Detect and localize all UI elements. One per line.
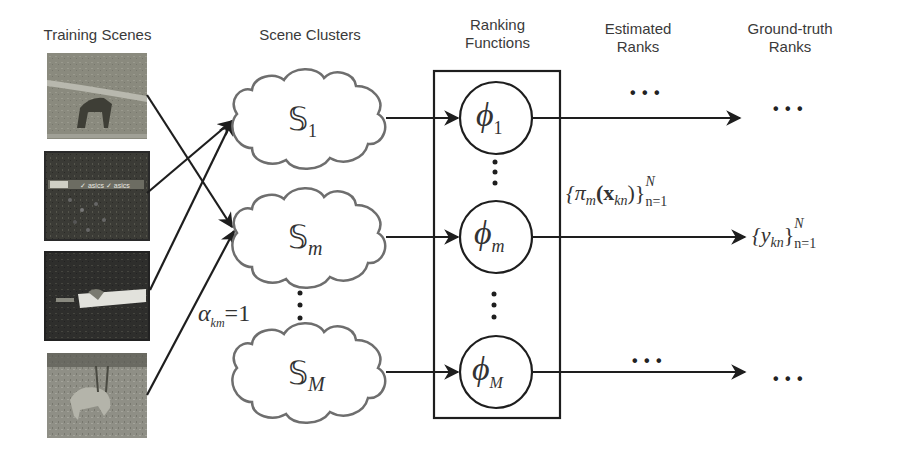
header-training-scenes: Training Scenes [0, 26, 195, 44]
svg-text:✓ asics ✓ asics: ✓ asics ✓ asics [80, 182, 130, 189]
training-image-4 [47, 353, 147, 438]
header-ground-truth-ranks-line2: Ranks [725, 38, 855, 56]
training-image-3 [45, 252, 149, 340]
subscript-range: n=1 [645, 194, 667, 210]
function-symbol: ϕ [474, 214, 492, 251]
header-estimated-ranks-line2: Ranks [588, 38, 688, 56]
x-symbol: (x [596, 180, 614, 205]
groundtruth-ellipsis-top: • • • [773, 100, 804, 118]
image-to-cluster-arrows [147, 95, 234, 395]
ground-truth-expression: {ykn}Nn=1 [752, 222, 834, 251]
cluster-subscript: m [308, 237, 322, 259]
alpha-subscript: km [211, 316, 225, 330]
header-ranking-functions-line1: Ranking [440, 16, 555, 34]
training-image-1 [47, 53, 147, 139]
close-brace: )} [628, 180, 646, 205]
header-estimated-ranks: Estimated Ranks [588, 20, 688, 56]
cluster-label-M: 𝕊M [288, 354, 325, 396]
estimated-rank-expression: {πm(xkn)}Nn=1 [566, 180, 685, 209]
cluster-symbol: 𝕊 [288, 219, 308, 255]
function-label-m: ϕm [474, 214, 505, 257]
pi-symbol: {π [566, 180, 586, 205]
cluster-symbol: 𝕊 [288, 355, 308, 391]
header-ground-truth-ranks: Ground-truth Ranks [725, 20, 855, 56]
cluster-symbol: 𝕊 [288, 101, 308, 137]
cluster-to-function-arrows [386, 118, 458, 372]
function-subscript: m [492, 236, 505, 256]
cluster-subscript: 1 [308, 121, 317, 141]
alpha-symbol: α [198, 300, 211, 326]
estimated-ellipsis-bottom: • • • [632, 352, 663, 370]
header-scene-clusters: Scene Clusters [230, 26, 390, 44]
function-symbol: ϕ [472, 350, 490, 387]
cluster-label-m: 𝕊m [288, 218, 322, 260]
y-symbol: {y [752, 222, 771, 247]
pi-subscript: m [586, 193, 596, 208]
header-estimated-ranks-line1: Estimated [588, 20, 688, 38]
header-ranking-functions: Ranking Functions [440, 16, 555, 52]
function-label-1: ϕ1 [476, 96, 503, 139]
header-ground-truth-ranks-line1: Ground-truth [725, 20, 855, 38]
function-subscript: 1 [494, 118, 503, 138]
y-subscript: kn [771, 235, 784, 250]
function-to-rank-arrows [532, 118, 745, 372]
cluster-subscript: M [308, 373, 325, 395]
superscript-N: N [645, 174, 654, 190]
groundtruth-ellipsis-bottom: • • • [773, 370, 804, 388]
assignment-annotation: αkm=1 [198, 300, 250, 331]
alpha-value: =1 [225, 300, 251, 326]
subscript-range: n=1 [794, 236, 816, 252]
training-image-2: ✓ asics ✓ asics [45, 152, 149, 240]
header-ranking-functions-line2: Functions [440, 34, 555, 52]
close-brace: } [784, 222, 795, 247]
function-symbol: ϕ [476, 96, 494, 133]
function-subscript: M [490, 374, 503, 391]
estimated-ellipsis-top: • • • [630, 84, 661, 102]
function-label-M: ϕM [472, 350, 503, 392]
x-subscript: kn [614, 193, 627, 208]
cluster-label-1: 𝕊1 [288, 100, 317, 142]
superscript-N: N [794, 216, 803, 232]
